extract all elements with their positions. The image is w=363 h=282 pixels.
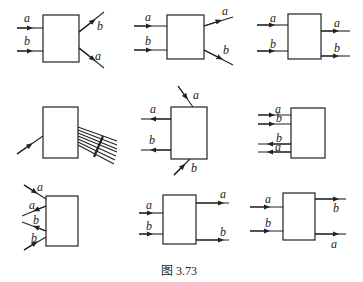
arrow-icon	[36, 206, 46, 210]
label-b: b	[33, 213, 39, 227]
label-b: b	[270, 37, 276, 51]
label-b: b	[333, 201, 339, 215]
label-b: b	[146, 219, 152, 233]
label-b: b	[276, 111, 282, 125]
label-a: a	[95, 49, 101, 63]
arrow-icon	[204, 21, 219, 26]
label-b: b	[265, 216, 271, 230]
interaction-box	[167, 15, 204, 59]
label-a: a	[24, 11, 30, 25]
figure-caption: 图 3.73	[161, 264, 197, 278]
interaction-box	[163, 195, 196, 244]
label-a: a	[331, 237, 337, 251]
label-a: a	[275, 140, 281, 154]
label-a: a	[29, 198, 35, 212]
panel-2: a b a b	[134, 4, 233, 65]
panel-4	[17, 107, 117, 164]
interaction-box	[291, 108, 325, 158]
panel-7: a a b b	[22, 180, 78, 250]
interaction-box	[171, 107, 207, 159]
label-a: a	[222, 4, 228, 18]
figure-3-73: a b b a a b a b a b a b	[0, 0, 363, 282]
label-a: a	[220, 187, 226, 201]
label-a: a	[265, 192, 271, 206]
arrow-icon	[36, 227, 46, 231]
label-b: b	[191, 161, 197, 175]
label-b: b	[24, 34, 30, 48]
label-b: b	[31, 231, 37, 245]
panel-6: a b b a	[258, 102, 325, 158]
interaction-box	[46, 196, 78, 246]
label-b: b	[220, 225, 226, 239]
interaction-box	[283, 193, 315, 240]
interaction-box	[43, 107, 78, 158]
arrow-icon	[178, 86, 186, 97]
label-a: a	[193, 88, 199, 102]
label-b: b	[223, 43, 229, 57]
outgoing-fan	[78, 127, 117, 164]
panel-3: a b a b	[257, 11, 350, 59]
label-b: b	[334, 41, 340, 55]
label-a: a	[37, 180, 43, 194]
arrow-icon	[174, 166, 183, 175]
panel-1: a b b a	[17, 11, 104, 68]
arrow-icon	[17, 145, 30, 154]
label-b: b	[149, 133, 155, 147]
label-a: a	[150, 102, 156, 116]
label-a: a	[145, 10, 151, 24]
arrow-icon	[79, 48, 93, 59]
interaction-box	[43, 15, 79, 62]
panel-5: a a b b	[141, 86, 207, 175]
label-b: b	[145, 34, 151, 48]
label-a: a	[146, 198, 152, 212]
arrow-icon	[24, 185, 35, 192]
arrow-icon	[204, 50, 220, 58]
label-b: b	[97, 19, 103, 33]
arrow-icon	[79, 21, 93, 32]
interaction-box	[288, 14, 321, 59]
panel-9: a b b a	[250, 192, 346, 251]
label-a: a	[270, 11, 276, 25]
label-a: a	[334, 16, 340, 30]
panel-8: a b a b	[139, 187, 229, 244]
